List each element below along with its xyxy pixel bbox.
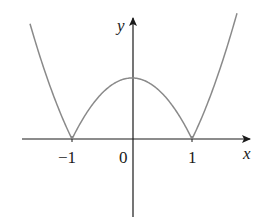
x-tick-label-1: 1 xyxy=(188,148,197,167)
x-axis-label: x xyxy=(242,144,251,163)
function-plot: y x −1 0 1 xyxy=(0,0,261,223)
x-tick-label-neg1: −1 xyxy=(58,148,76,167)
x-tick-label-0: 0 xyxy=(119,148,128,167)
y-axis-label: y xyxy=(115,16,125,35)
